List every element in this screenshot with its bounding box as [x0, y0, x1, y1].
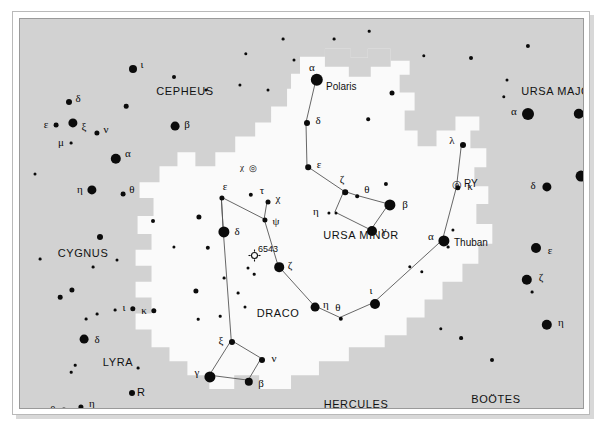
star-marker [137, 367, 140, 370]
star-marker [282, 38, 285, 41]
star-marker [384, 199, 395, 210]
constellation-name-ursaminor: URSA MINOR [323, 230, 399, 241]
star-marker [54, 123, 59, 128]
star-marker [293, 59, 296, 62]
star-chart-page: ιδεξνμαβηθαδεζθβγηλκαιθηζψχεδτξνβγαβγδεζ… [0, 0, 607, 437]
star-marker [151, 308, 156, 313]
star-marker [335, 212, 338, 215]
star-marker [124, 104, 129, 109]
star-marker [542, 320, 552, 330]
star-marker [342, 189, 348, 195]
star-designation-label: δ [315, 115, 320, 126]
star-designation-label: ξ [82, 121, 87, 132]
star-marker [129, 65, 137, 73]
star-marker [237, 292, 240, 295]
star-marker [39, 258, 42, 261]
star-designation-label: ε [548, 245, 553, 256]
star-marker [574, 109, 584, 119]
star-marker [366, 117, 370, 121]
star-designation-label: ε [223, 181, 228, 192]
star-designation-label: τ [260, 185, 264, 196]
star-marker [87, 185, 96, 194]
star-marker [66, 99, 72, 105]
star-marker [522, 108, 534, 120]
star-designation-label: γ [195, 367, 200, 378]
star-marker [244, 306, 247, 309]
star-marker [196, 214, 201, 219]
constellation-name-cepheus: CEPHEUS [156, 86, 213, 97]
star-marker [69, 287, 74, 292]
constellation-name-hercules: HERCULES [324, 399, 389, 410]
star-designation-label: β [402, 199, 408, 210]
star-designation-label: β [184, 119, 190, 130]
star-designation-label: η [323, 299, 329, 310]
star-marker [94, 130, 99, 135]
star-designation-label: β [258, 378, 264, 389]
star-marker [262, 217, 267, 222]
star-designation-label: R [137, 387, 145, 398]
star-marker [333, 38, 336, 41]
star-designation-label: θ [335, 302, 340, 313]
star-designation-label: θ [129, 184, 134, 195]
star-designation-label: α [511, 106, 517, 117]
star-designation-label: ι [123, 302, 126, 313]
star-designation-label: ν [104, 124, 109, 135]
star-marker [70, 142, 73, 145]
star-designation-label: θ [364, 184, 369, 195]
named-star-polaris: Polaris [326, 82, 357, 92]
star-marker [204, 371, 215, 382]
star-marker [223, 277, 226, 280]
star-marker [490, 358, 494, 362]
star-marker [390, 91, 395, 96]
star-marker [96, 313, 99, 316]
star-marker [68, 118, 77, 127]
star-marker [219, 315, 222, 318]
star-marker [70, 371, 73, 374]
star-marker [193, 288, 198, 293]
star-marker [249, 193, 253, 197]
named-star-thuban: Thuban [454, 238, 488, 248]
star-marker [58, 295, 63, 300]
star-marker [116, 259, 119, 262]
star-designation-label: η [77, 184, 83, 195]
star-marker [384, 182, 388, 186]
star-marker [151, 219, 155, 223]
star-designation-label: δ [530, 180, 535, 191]
star-marker [172, 75, 176, 79]
star-marker [506, 79, 509, 82]
star-marker [130, 306, 135, 311]
star-marker [531, 243, 541, 253]
star-marker [172, 245, 175, 248]
constellation-lines [20, 19, 583, 408]
star-marker [576, 171, 584, 182]
star-marker [447, 246, 450, 249]
chi-cluster-label: χ [240, 163, 244, 172]
star-designation-label: λ [449, 135, 454, 146]
star-marker [111, 154, 121, 164]
star-designation-label: θ [50, 404, 55, 410]
star-marker [129, 390, 135, 396]
star-designation-label: ε [317, 159, 322, 170]
star-marker [253, 273, 256, 276]
constellation-name-cygnus: CYGNUS [58, 248, 109, 259]
star-marker [439, 327, 442, 330]
star-marker [304, 120, 310, 126]
star-marker [114, 309, 117, 312]
named-star-ry: RY [464, 179, 478, 189]
star-marker [244, 52, 247, 55]
star-designation-label: δ [94, 334, 99, 345]
star-designation-label: ι [370, 285, 373, 296]
constellation-name-draco: DRACO [257, 308, 300, 319]
star-designation-label: ζ [288, 260, 293, 271]
star-marker [92, 266, 95, 269]
constellation-name-bootes: BOÖTES [471, 394, 520, 405]
star-marker [495, 408, 505, 409]
star-marker [408, 265, 411, 268]
ngc6543-label: 6543 [258, 245, 278, 254]
star-marker [451, 228, 454, 231]
star-marker [274, 262, 284, 272]
star-marker [171, 122, 180, 131]
star-designation-label: χ [276, 193, 281, 204]
star-marker [78, 404, 83, 409]
star-designation-label: η [558, 317, 564, 328]
